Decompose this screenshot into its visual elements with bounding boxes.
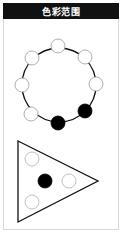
triangle-diagram (18, 141, 98, 222)
triangle-dot-empty (25, 195, 39, 209)
ring-dot-empty (15, 78, 29, 92)
ring-dot-filled (51, 116, 65, 130)
triangle-dot-empty (62, 174, 76, 188)
triangle-dot-filled (38, 174, 52, 188)
ring-dot-empty (25, 51, 39, 65)
ring-dot-empty (78, 50, 92, 64)
ring-diagram (15, 39, 103, 130)
ring-dot-empty (24, 107, 38, 121)
ring-dot-empty (89, 77, 103, 91)
color-range-diagram (0, 0, 122, 239)
ring-dot-filled (78, 104, 92, 118)
triangle-dot-empty (25, 152, 39, 166)
ring-dot-empty (51, 39, 65, 53)
